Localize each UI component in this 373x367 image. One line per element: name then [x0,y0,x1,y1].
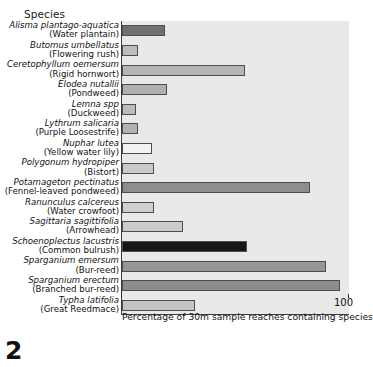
bar [122,84,167,95]
bar [122,280,340,291]
category-label: Potamageton pectinatus(Fennel-leaved pon… [0,178,119,197]
category-label-common: (Yellow water lily) [0,148,119,157]
category-label-common: (Water plantain) [0,30,119,39]
bar [122,143,152,154]
x-axis-tick-label-100: 100 [334,297,353,308]
bar [122,202,154,213]
category-label-common: (Rigid hornwort) [0,70,119,79]
category-label: Lythrum salicaria(Purple Loosestrife) [0,119,119,138]
category-label-common: (Bur-reed) [0,266,119,275]
bar [122,25,165,36]
category-label: Ranunculus calcereus(Water crowfoot) [0,198,119,217]
y-axis-title: Species [24,8,65,20]
category-label-column: Alisma plantago-aquatica(Water plantain)… [0,21,121,315]
category-label: Butomus umbellatus(Flowering rush) [0,41,119,60]
x-axis-tick-0 [121,294,122,298]
x-axis-title: Percentage of 30m sample reaches contain… [122,311,373,322]
category-label: Lemna spp(Duckweed) [0,100,119,119]
category-label: Alisma plantago-aquatica(Water plantain) [0,21,119,40]
bar [122,182,310,193]
category-label-common: (Fennel-leaved pondweed) [0,187,119,196]
category-label-common: (Purple Loosestrife) [0,128,119,137]
plot-area [121,21,349,315]
category-label-common: (Bistort) [0,168,119,177]
category-label-common: (Great Reedmace) [0,305,119,314]
category-label-common: (Branched bur-reed) [0,285,119,294]
bar [122,241,247,252]
category-label-common: (Common bulrush) [0,246,119,255]
category-label-common: (Arrowhead) [0,226,119,235]
category-label-common: (Duckweed) [0,109,119,118]
category-label-common: (Pondweed) [0,89,119,98]
bar [122,221,183,232]
chart-body: Alisma plantago-aquatica(Water plantain)… [0,21,372,315]
bar [122,65,245,76]
category-label: Typha latifolia(Great Reedmace) [0,296,119,315]
figure-number: 2 [5,338,22,363]
category-label-common: (Water crowfoot) [0,207,119,216]
bar [122,300,195,311]
category-label: Polygonum hydropiper(Bistort) [0,158,119,177]
bar [122,261,326,272]
category-label-scientific: Sparganium emersum [23,255,119,265]
category-label: Sagittaria sagittifolia(Arrowhead) [0,217,119,236]
category-label: Sparganium emersum(Bur-reed) [0,256,119,275]
category-label: Sparganium erectum(Branched bur-reed) [0,276,119,295]
category-label: Ceretophyllum oemersum(Rigid hornwort) [0,60,119,79]
category-label: Nuphar lutea(Yellow water lily) [0,139,119,158]
category-label-scientific: Ceretophyllum oemersum [7,59,119,69]
category-label: Elodea nutallii(Pondweed) [0,80,119,99]
bar [122,45,138,56]
bar [122,163,154,174]
bar [122,104,136,115]
category-label: Schoenoplectus lacustris(Common bulrush) [0,237,119,256]
category-label-scientific: Polygonum hydropiper [21,157,119,167]
bar [122,123,138,134]
category-label-common: (Flowering rush) [0,50,119,59]
